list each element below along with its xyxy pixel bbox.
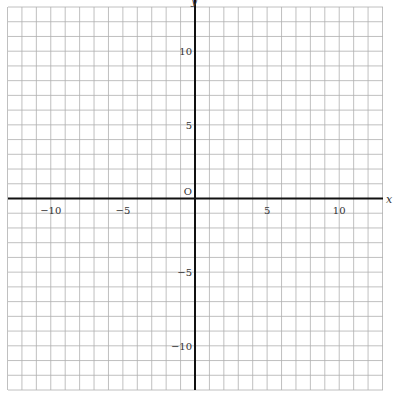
axis-labels: −10−5510105−5−10Oxy bbox=[40, 0, 393, 352]
x-tick-label: 5 bbox=[264, 205, 270, 216]
coordinate-grid: −10−5510105−5−10Oxy bbox=[0, 0, 395, 404]
x-tick-label: −10 bbox=[40, 205, 61, 216]
origin-label: O bbox=[184, 186, 192, 197]
x-axis-label: x bbox=[386, 193, 393, 206]
axes bbox=[8, 0, 383, 390]
y-tick-label: −5 bbox=[177, 267, 192, 278]
y-tick-label: 10 bbox=[179, 46, 192, 57]
x-tick-label: −5 bbox=[116, 205, 131, 216]
y-tick-label: −10 bbox=[171, 341, 192, 352]
x-tick-label: 10 bbox=[333, 205, 346, 216]
y-tick-label: 5 bbox=[186, 120, 192, 131]
y-axis-label: y bbox=[190, 0, 198, 8]
